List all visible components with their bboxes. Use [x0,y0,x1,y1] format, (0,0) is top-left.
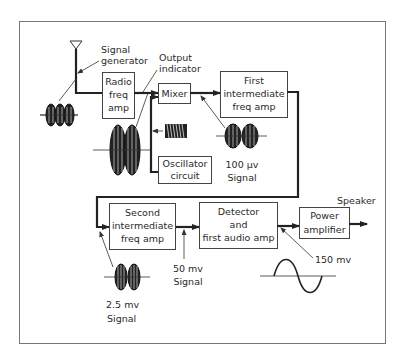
svg-text:intermediate: intermediate [112,220,173,231]
svg-text:first audio amp: first audio amp [202,232,274,243]
signal-level-label: Signal [173,276,202,287]
svg-text:freq amp: freq amp [121,233,164,244]
signal-generator-label: generator [101,55,148,66]
signal-level-label: Signal [107,313,136,324]
radio-freq-amp-block: Radio freq amp [103,73,135,119]
svg-text:Radio: Radio [105,76,132,87]
svg-text:Power: Power [310,210,339,221]
svg-text:amplifier: amplifier [303,224,345,235]
output-indicator-label: indicator [159,63,201,74]
pointer-line [59,79,76,101]
modulated-waveform-icon [93,125,151,175]
pointer-line [78,61,99,73]
antenna-icon [70,41,102,93]
svg-text:Second: Second [125,207,160,218]
svg-text:First: First [244,75,264,86]
oscillator-waveform-icon [165,124,187,138]
signal-level-label: Signal [227,172,256,183]
second-if-amp-block: Second intermediate freq amp [110,204,176,250]
first-if-amp-block: First intermediate freq amp [221,72,288,118]
svg-text:freq: freq [109,89,128,100]
rf-waveform-icon [40,104,78,126]
signal-level-label: 2.5 mv [106,299,139,310]
oscillator-circuit-block: Oscillator circuit [159,157,212,184]
svg-text:Detector: Detector [218,206,259,217]
svg-text:intermediate: intermediate [223,88,284,99]
power-amplifier-block: Power amplifier [300,208,350,239]
modulated-waveform-icon [104,264,150,290]
svg-text:Mixer: Mixer [162,88,188,99]
svg-text:amp: amp [108,102,129,113]
svg-text:Oscillator: Oscillator [163,158,208,169]
signal-generator-label: Signal [101,44,130,55]
output-indicator-label: Output [159,52,192,63]
oscillator-to-mixer-wire [151,97,158,172]
mixer-block: Mixer [159,84,191,104]
receiver-block-diagram: Signal generator Radio freq amp Output i… [0,0,407,360]
speaker-label: Speaker [337,195,376,206]
svg-text:and: and [230,219,248,230]
svg-text:freq amp: freq amp [232,101,275,112]
pointer-line [136,93,148,127]
detector-block: Detector and first audio amp [200,203,278,249]
signal-level-label: 100 µv [226,159,259,170]
pointer-line [143,70,157,92]
signal-level-label: 150 mv [315,254,351,265]
svg-text:circuit: circuit [170,170,199,181]
modulated-waveform-icon [216,124,267,148]
signal-level-label: 50 mv [173,263,203,274]
